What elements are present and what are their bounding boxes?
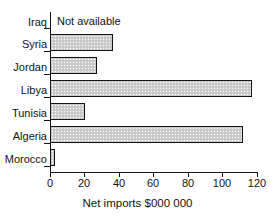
bar-chart: Iraq Syria Jordan Libya Tunisia Algeria … xyxy=(0,0,275,221)
bar-syria xyxy=(50,34,113,51)
x-axis-tick-label: 20 xyxy=(69,177,99,189)
category-label-text: Syria xyxy=(1,38,47,50)
x-axis-tick-label: 80 xyxy=(173,177,203,189)
not-available-annotation: Not available xyxy=(57,15,121,27)
category-label-text: Iraq xyxy=(1,16,47,28)
x-axis-tick-label: 60 xyxy=(138,177,168,189)
x-axis-tick-label: 0 xyxy=(35,177,65,189)
x-axis-tick-label: 120 xyxy=(242,177,272,189)
y-axis-tick xyxy=(44,28,50,29)
x-axis-tick-label: 100 xyxy=(207,177,237,189)
bar-algeria xyxy=(50,126,243,143)
y-axis-tick xyxy=(44,74,50,75)
bar-morocco xyxy=(50,149,55,166)
x-axis-line xyxy=(50,172,258,173)
y-axis-tick xyxy=(44,51,50,52)
y-axis-tick xyxy=(44,143,50,144)
category-label-text: Libya xyxy=(1,84,47,96)
y-axis-tick xyxy=(44,97,50,98)
y-axis-tick xyxy=(44,166,50,167)
category-label-text: Jordan xyxy=(1,61,47,73)
category-label-text: Algeria xyxy=(1,130,47,142)
category-label-text: Tunisia xyxy=(1,107,47,119)
bar-jordan xyxy=(50,57,97,74)
x-axis-title: Net imports $000 000 xyxy=(0,197,275,210)
category-label-text: Morocco xyxy=(1,153,47,165)
bar-libya xyxy=(50,80,252,97)
x-axis-tick-label: 40 xyxy=(104,177,134,189)
y-axis-tick xyxy=(44,120,50,121)
bar-tunisia xyxy=(50,103,85,120)
